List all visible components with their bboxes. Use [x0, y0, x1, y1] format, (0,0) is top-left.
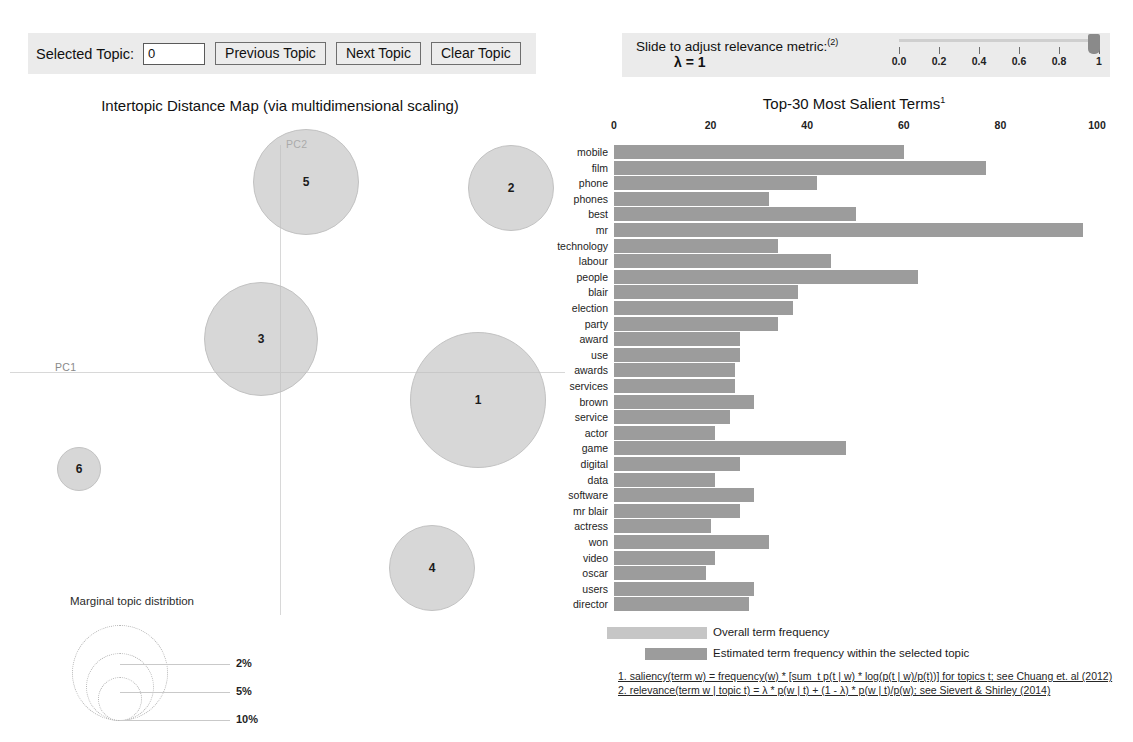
- bar-term-label: actress: [574, 519, 608, 533]
- bar-term-label: best: [588, 207, 608, 221]
- bar-row[interactable]: technology: [614, 239, 1097, 253]
- bar-row[interactable]: director: [614, 597, 1097, 611]
- bar-fill: [614, 161, 986, 175]
- bar-row[interactable]: service: [614, 410, 1097, 424]
- x-tick-label-100: 100: [1088, 119, 1106, 131]
- bar-row[interactable]: award: [614, 332, 1097, 346]
- bar-row[interactable]: party: [614, 317, 1097, 331]
- bar-term-label: party: [585, 317, 608, 331]
- bar-term-label: won: [589, 535, 608, 549]
- bar-fill: [614, 473, 715, 487]
- bar-term-label: film: [592, 161, 608, 175]
- bar-fill: [614, 176, 817, 190]
- bar-term-label: election: [572, 301, 608, 315]
- x-tick-label-20: 20: [705, 119, 717, 131]
- bar-fill: [614, 566, 706, 580]
- x-tick-label-60: 60: [898, 119, 910, 131]
- bar-term-label: mr: [596, 223, 608, 237]
- bar-fill: [614, 582, 754, 596]
- bar-fill: [614, 332, 740, 346]
- bar-term-label: award: [579, 332, 608, 346]
- bar-row[interactable]: phone: [614, 176, 1097, 190]
- bar-fill: [614, 192, 769, 206]
- bar-row[interactable]: best: [614, 207, 1097, 221]
- bar-term-label: actor: [585, 426, 608, 440]
- bar-row[interactable]: users: [614, 582, 1097, 596]
- bar-term-label: awards: [574, 363, 608, 377]
- bar-fill: [614, 301, 793, 315]
- bar-row[interactable]: services: [614, 379, 1097, 393]
- bar-row[interactable]: actor: [614, 426, 1097, 440]
- bar-row[interactable]: people: [614, 270, 1097, 284]
- bar-row[interactable]: election: [614, 301, 1097, 315]
- bar-term-label: people: [576, 270, 608, 284]
- bar-row[interactable]: blair: [614, 285, 1097, 299]
- bar-fill: [614, 488, 754, 502]
- bar-fill: [614, 426, 715, 440]
- bar-fill: [614, 457, 740, 471]
- bar-fill: [614, 410, 730, 424]
- bar-fill: [614, 363, 735, 377]
- bar-term-label: technology: [557, 239, 608, 253]
- bar-fill: [614, 223, 1083, 237]
- bar-term-label: users: [582, 582, 608, 596]
- x-tick-label-80: 80: [995, 119, 1007, 131]
- bar-row[interactable]: software: [614, 488, 1097, 502]
- legend-label: Overall term frequency: [713, 626, 829, 638]
- pyldavis-visualization: Selected Topic: Previous Topic Next Topi…: [0, 0, 1133, 742]
- bar-term-label: director: [573, 597, 608, 611]
- bar-row[interactable]: mobile: [614, 145, 1097, 159]
- legend-label: Estimated term frequency within the sele…: [713, 647, 969, 659]
- bar-row[interactable]: digital: [614, 457, 1097, 471]
- bar-term-label: use: [591, 348, 608, 362]
- footnote-relevance[interactable]: 2. relevance(term w | topic t) = λ * p(w…: [618, 684, 1050, 696]
- bar-row[interactable]: won: [614, 535, 1097, 549]
- bar-fill: [614, 239, 778, 253]
- bar-fill: [614, 597, 749, 611]
- bar-term-label: oscar: [582, 566, 608, 580]
- bar-fill: [614, 379, 735, 393]
- bar-row[interactable]: oscar: [614, 566, 1097, 580]
- bar-term-label: software: [568, 488, 608, 502]
- bar-row[interactable]: actress: [614, 519, 1097, 533]
- bar-row[interactable]: phones: [614, 192, 1097, 206]
- bar-fill: [614, 207, 856, 221]
- bar-term-label: phone: [579, 176, 608, 190]
- bar-term-label: service: [575, 410, 608, 424]
- bar-row[interactable]: labour: [614, 254, 1097, 268]
- bar-fill: [614, 441, 846, 455]
- bar-row[interactable]: brown: [614, 395, 1097, 409]
- bar-fill: [614, 270, 918, 284]
- bar-term-label: video: [583, 551, 608, 565]
- bar-fill: [614, 519, 711, 533]
- bar-term-label: digital: [581, 457, 608, 471]
- bar-fill: [614, 254, 831, 268]
- bar-row[interactable]: game: [614, 441, 1097, 455]
- bar-fill: [614, 317, 778, 331]
- x-tick-label-40: 40: [801, 119, 813, 131]
- bar-fill: [614, 285, 798, 299]
- legend-swatch-estimated: [645, 648, 707, 660]
- bar-term-label: data: [588, 473, 608, 487]
- legend-swatch-overall: [607, 627, 707, 639]
- bar-row[interactable]: video: [614, 551, 1097, 565]
- bar-fill: [614, 348, 740, 362]
- bar-row[interactable]: use: [614, 348, 1097, 362]
- bar-fill: [614, 551, 715, 565]
- bar-row[interactable]: mr blair: [614, 504, 1097, 518]
- bar-term-label: blair: [588, 285, 608, 299]
- bar-term-label: phones: [574, 192, 608, 206]
- x-tick-label-0: 0: [611, 119, 617, 131]
- bar-term-label: services: [569, 379, 608, 393]
- bar-term-label: labour: [579, 254, 608, 268]
- footnote-saliency[interactable]: 1. saliency(term w) = frequency(w) * [su…: [618, 670, 1112, 682]
- bar-term-label: brown: [579, 395, 608, 409]
- bar-term-label: mr blair: [573, 504, 608, 518]
- bar-row[interactable]: mr: [614, 223, 1097, 237]
- salient-terms-barchart: 020406080100 mobilefilmphonephonesbestmr…: [0, 0, 1133, 742]
- bar-term-label: game: [582, 441, 608, 455]
- bar-fill: [614, 535, 769, 549]
- bar-row[interactable]: data: [614, 473, 1097, 487]
- bar-row[interactable]: film: [614, 161, 1097, 175]
- bar-row[interactable]: awards: [614, 363, 1097, 377]
